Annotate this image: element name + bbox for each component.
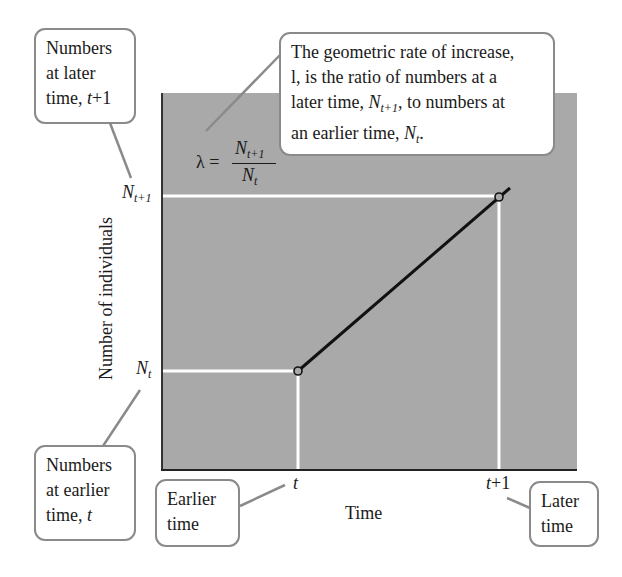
x-tick-t: t (293, 473, 298, 494)
lambda-symbol: λ = (196, 152, 219, 173)
data-point-nt (294, 367, 302, 375)
callout-later-numbers: Numbers at later time, t+1 (34, 28, 136, 124)
callout-definition: The geometric rate of increase, l, is th… (279, 32, 555, 156)
leader-earlier-numbers (103, 390, 140, 446)
x-axis-title: Time (345, 503, 382, 524)
callout-later-time: Later time (529, 481, 599, 547)
equation-numerator: Nt+1 (235, 138, 264, 162)
fraction-bar (232, 163, 276, 164)
leader-later-time (507, 498, 530, 508)
y-tick-nt: Nt (136, 358, 151, 382)
leader-earlier-time (240, 485, 285, 506)
data-point-nt1 (495, 193, 503, 201)
y-axis-title: Number of individuals (96, 217, 117, 380)
equation-denominator: Nt (242, 165, 257, 189)
y-tick-nt1: Nt+1 (122, 182, 151, 206)
x-tick-t1: t+1 (486, 473, 510, 494)
leader-later-numbers (110, 123, 131, 178)
callout-earlier-numbers: Numbers at earlier time, t (34, 445, 136, 541)
callout-earlier-time: Earlier time (155, 479, 240, 547)
